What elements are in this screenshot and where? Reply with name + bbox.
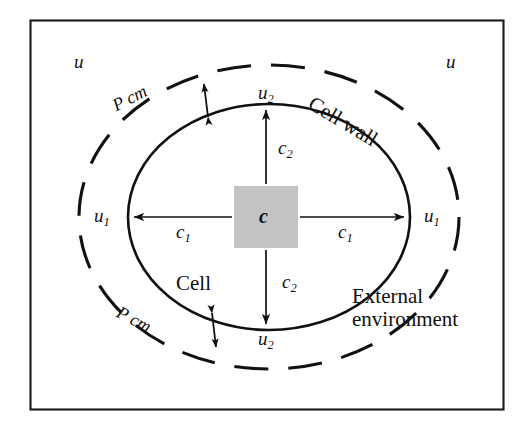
label-u1-left-base: u — [94, 205, 104, 226]
label-u1-left-subscript: 1 — [104, 215, 110, 229]
label-c1-left-subscript: 1 — [184, 231, 190, 245]
label-c2-bottom: c2 — [282, 272, 297, 295]
label-u2-bottom-subscript: 2 — [268, 338, 274, 352]
label-u-top-right: u — [446, 52, 456, 72]
label-u1-right: u1 — [424, 206, 440, 229]
label-c-centre: c — [259, 206, 268, 227]
label-u-top-left: u — [74, 52, 84, 72]
label-u1-right-subscript: 1 — [434, 215, 440, 229]
label-c1-right: c1 — [338, 222, 353, 245]
label-c1-left: c1 — [176, 222, 191, 245]
label-u2-top-subscript: 2 — [268, 92, 274, 106]
wall-thickness-arrow-top — [204, 84, 208, 117]
label-u1-right-base: u — [424, 205, 434, 226]
label-external-environment-line2: environment — [352, 308, 458, 330]
label-c2-top-subscript: 2 — [286, 147, 292, 161]
label-cell: Cell — [176, 272, 211, 294]
wall-thickness-arrow-bottom — [212, 313, 216, 347]
label-u1-left: u1 — [94, 206, 110, 229]
label-u2-top-base: u — [258, 82, 268, 103]
label-c2-bottom-subscript: 2 — [290, 281, 296, 295]
label-external-environment-line1: External — [352, 285, 423, 307]
label-c2-top: c2 — [278, 138, 293, 161]
label-u2-bottom-base: u — [258, 328, 268, 349]
label-u2-top: u2 — [258, 83, 274, 106]
label-c1-right-subscript: 1 — [346, 231, 352, 245]
label-u2-bottom: u2 — [258, 329, 274, 352]
cell-diffusion-figure: u u u1 u1 u2 u2 c1 c1 c2 c2 c P cm P cm … — [0, 0, 527, 428]
